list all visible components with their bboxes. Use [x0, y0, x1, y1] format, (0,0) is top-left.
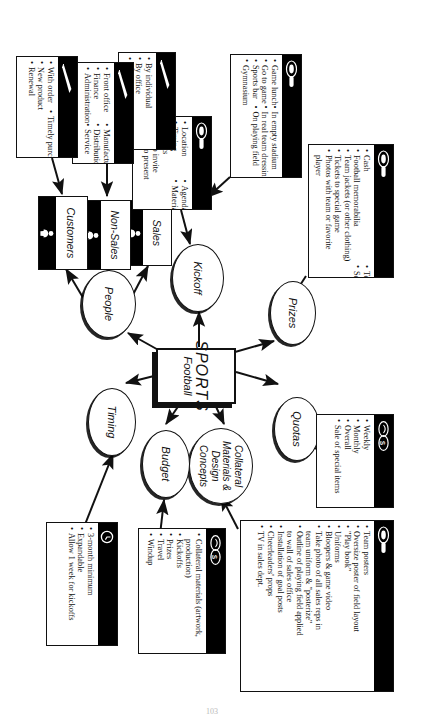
node-kickoff-label: Kickoff	[192, 257, 205, 298]
root-title-primary: SPORTS	[194, 340, 210, 412]
list-item: Manufacturing	[101, 123, 111, 163]
list-item: Front office	[101, 67, 111, 123]
root-title-secondary: Football	[183, 356, 194, 395]
list-item: Allow 1 week for kickoffs	[66, 527, 76, 620]
list-item: Cash	[361, 149, 371, 265]
list-item: Cheerleaders' props	[265, 525, 275, 641]
detail-list-quotas: WeeklyMonthlyOverallSale of special item…	[333, 419, 371, 493]
list-item: By office	[134, 57, 144, 108]
detail-box-kickoff-venue[interactable]: Game lunchGo to gameSports barGymnasiumI…	[230, 54, 302, 178]
list-item: Team jackets (or other clothing)	[342, 149, 352, 265]
list-item: With order	[45, 61, 55, 110]
detail-box-customers[interactable]: With orderNew productRenewalTimely purch…	[16, 56, 78, 158]
detail-list-kickoff-venue: Game lunchGo to gameSports barGymnasiumI…	[234, 59, 279, 173]
node-people-label: People	[103, 283, 116, 325]
link-root-prizes	[235, 341, 274, 352]
list-item: In empty stadium	[269, 106, 279, 177]
node-timing-label: Timing	[106, 402, 119, 443]
node-collateral-label: Collateral Materials & Design Concepts	[198, 429, 244, 503]
list-item: Sale of special items	[333, 419, 343, 493]
trophy-icon	[374, 521, 393, 691]
root-node[interactable]: SPORTS Football	[156, 348, 236, 404]
detail-box-budget[interactable]: $ Collateral materials (artwork, product…	[138, 528, 226, 654]
list-item: On playing field	[250, 106, 260, 177]
list-item: Prizes	[165, 533, 175, 649]
link-timingbox-timing	[84, 454, 113, 527]
list-item: Service	[82, 123, 92, 163]
list-item: Overall	[342, 419, 352, 493]
list-item: Gymnasium	[241, 59, 251, 106]
list-item: Renewal	[26, 61, 36, 110]
money-icon: $	[374, 415, 393, 507]
list-item: Travel	[155, 533, 165, 649]
list-item: Uniforms	[333, 525, 343, 641]
list-item: New product	[36, 61, 46, 110]
list-item: Kickoffs	[174, 533, 184, 649]
detail-list-customers: With orderNew productRenewalTimely purch…	[20, 61, 55, 153]
list-item: Monthly	[352, 419, 362, 493]
detail-box-collateral[interactable]: Team postersOversize poster of field lay…	[240, 520, 394, 692]
clock-icon	[98, 523, 117, 645]
list-item: Outline of playing field applied to wall…	[285, 525, 304, 641]
node-people[interactable]: People	[82, 270, 136, 338]
detail-box-prizes[interactable]: CashFootball memorabiliaTeam jackets (or…	[308, 144, 394, 278]
node-budget[interactable]: Budget	[142, 430, 190, 498]
subbox-non-sales-label: Non-Sales	[101, 201, 130, 269]
list-item: By individual	[143, 57, 153, 108]
trophy-icon	[282, 55, 301, 177]
list-item: Distribution	[92, 123, 102, 163]
list-item: 3-month minimum	[85, 527, 95, 620]
list-item: Football memorabilia	[352, 149, 362, 265]
subbox-customers-label: Customers	[56, 197, 87, 269]
detail-box-non-sales[interactable]: Front officeFinanceAdministrationManufac…	[72, 62, 134, 164]
detail-box-timing[interactable]: 3-month minimumExpandableAllow 1 week fo…	[46, 522, 118, 646]
list-item: Windup	[145, 533, 155, 649]
link-root-quotas	[236, 372, 278, 384]
detail-list-non-sales: Front officeFinanceAdministrationManufac…	[76, 67, 111, 159]
list-item: In real team dressing room	[260, 106, 270, 177]
list-item: Administration	[82, 67, 92, 123]
detail-list-timing: 3-month minimumExpandableAllow 1 week fo…	[66, 527, 95, 620]
list-item: Agenda	[179, 180, 189, 209]
subbox-sales-label: Sales	[143, 201, 171, 265]
list-item: Take photo of all sales reps in team uni…	[304, 525, 323, 641]
person-icon	[39, 197, 56, 269]
node-collateral[interactable]: Collateral Materials & Design Concepts	[189, 428, 253, 504]
list-item: Game lunch	[269, 59, 279, 106]
trophy-icon	[374, 145, 393, 277]
list-item: Go to game	[260, 59, 270, 106]
pen-icon	[114, 63, 133, 163]
trophy-icon	[192, 117, 211, 209]
list-item: Materials required	[170, 180, 180, 209]
node-prizes[interactable]: Prizes	[270, 281, 316, 345]
svg-text:$: $	[378, 441, 387, 445]
list-item: Season's tickets	[352, 265, 362, 277]
subbox-non-sales[interactable]: Non-Sales	[83, 200, 131, 270]
detail-list-budget: Collateral materials (artwork, productio…	[145, 533, 203, 649]
link-customersbox-customers	[52, 158, 62, 194]
page-number: 103	[0, 707, 424, 716]
list-item: TV in sales dept.	[256, 525, 266, 641]
mindmap-stage: SPORTS Football Prizes Quotas Collateral…	[0, 0, 424, 722]
link-agendabox-kickoff	[181, 210, 190, 244]
list-item: "Play book"	[342, 525, 352, 641]
list-item: Timely purchase	[45, 110, 55, 157]
node-quotas[interactable]: Quotas	[274, 397, 320, 461]
svg-text:$: $	[210, 555, 219, 559]
detail-list-prizes: CashFootball memorabiliaTeam jackets (or…	[312, 149, 371, 273]
node-prizes-label: Prizes	[287, 294, 300, 333]
node-quotas-label: Quotas	[291, 407, 304, 450]
pen-icon	[58, 57, 77, 157]
list-item: Photos with team or favorite player	[313, 149, 332, 265]
subbox-customers[interactable]: Customers	[38, 196, 88, 270]
list-item: Tickets to special game	[333, 149, 343, 265]
node-budget-label: Budget	[160, 443, 173, 486]
list-item: Oversize poster of field layout	[352, 525, 362, 641]
money-icon: $	[206, 529, 225, 653]
detail-list-collateral: Team postersOversize poster of field lay…	[256, 525, 371, 641]
detail-box-quotas[interactable]: $ WeeklyMonthlyOverallSale of special it…	[316, 414, 394, 508]
node-timing[interactable]: Timing	[88, 388, 136, 456]
node-kickoff[interactable]: Kickoff	[172, 244, 224, 312]
list-item: Team posters	[361, 525, 371, 641]
list-item: Installation of goal posts	[275, 525, 285, 641]
